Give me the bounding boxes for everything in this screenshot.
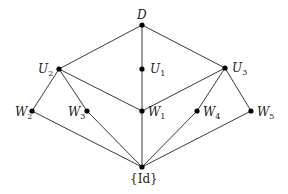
label-subscript: 3 <box>242 68 247 77</box>
label-w1: W1 <box>148 105 165 121</box>
node-id <box>139 164 144 169</box>
label-subscript: 1 <box>160 69 165 78</box>
edge-w2-id <box>32 111 142 167</box>
label-u3: U3 <box>232 61 247 77</box>
edge-d-u2 <box>59 25 142 69</box>
node-u1 <box>139 66 144 71</box>
label-w4: W4 <box>203 105 220 121</box>
label-w3: W3 <box>68 105 85 121</box>
edges <box>32 25 251 167</box>
edge-w3-id <box>87 111 142 167</box>
label-u2: U2 <box>38 62 53 78</box>
label-w2: W2 <box>15 105 32 121</box>
label-w5: W5 <box>257 105 274 121</box>
label-subscript: 2 <box>48 69 53 78</box>
labels: DU1U2U3W1W2W3W4W5{Id} <box>15 8 274 186</box>
node-w5 <box>248 108 253 113</box>
node-w1 <box>139 108 144 113</box>
edge-w4-id <box>142 111 197 167</box>
label-subscript: 3 <box>80 112 85 121</box>
node-w4 <box>194 108 199 113</box>
label-subscript: 2 <box>27 112 32 121</box>
label-u1: U1 <box>150 62 165 78</box>
edge-w5-id <box>142 111 251 167</box>
node-d <box>139 22 144 27</box>
label-d: D <box>136 8 147 22</box>
label-subscript: 5 <box>269 112 274 121</box>
label-id: {Id} <box>130 172 158 186</box>
node-u3 <box>222 65 227 70</box>
label-subscript: 1 <box>160 112 165 121</box>
label-subscript: 4 <box>215 112 220 121</box>
node-u2 <box>56 66 61 71</box>
hasse-diagram: DU1U2U3W1W2W3W4W5{Id} <box>0 0 288 194</box>
